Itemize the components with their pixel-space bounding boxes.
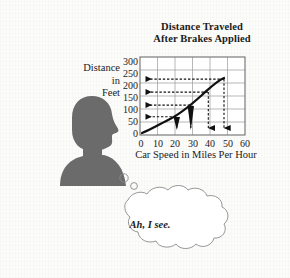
figure-graphics [0, 0, 290, 278]
thought-cloud [125, 186, 228, 249]
plot-area [140, 57, 245, 135]
thought-text: Ah, I see. [105, 219, 195, 230]
thought-bubble-small-2 [131, 183, 138, 190]
figure-canvas: Distance Traveled After Brakes Applied D… [0, 0, 290, 278]
person-silhouette [60, 96, 126, 186]
